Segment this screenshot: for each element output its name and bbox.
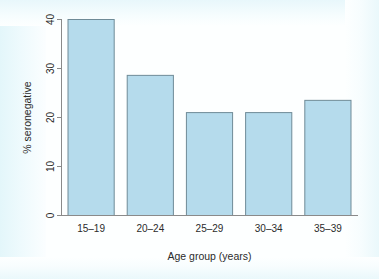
x-tick-label-20-24: 20–24 [136,223,164,234]
bar-20-24 [127,75,173,215]
bar-15-19 [68,20,114,216]
bar-25-29 [186,113,232,216]
x-tick-label-15-19: 15–19 [77,223,105,234]
y-axis-title: % seronegative [21,81,33,154]
x-tick-label-30-34: 30–34 [255,223,283,234]
y-axis [57,20,62,216]
y-tick-label-20: 20 [45,112,56,124]
bar-35-39 [305,100,351,215]
x-tick-label-35-39: 35–39 [314,223,342,234]
bar-30-34 [246,113,292,216]
chart-figure: 010203040 15–1920–2425–2930–3435–39 % se… [0,0,379,279]
x-axis-title: Age group (years) [167,250,251,262]
y-tick-labels: 010203040 [45,14,56,219]
y-tick-label-30: 30 [45,63,56,75]
x-tick-label-25-29: 25–29 [196,223,224,234]
bars-group [68,20,351,216]
x-tick-labels: 15–1920–2425–2930–3435–39 [77,223,342,234]
y-tick-label-40: 40 [45,14,56,26]
y-tick-label-0: 0 [45,212,56,218]
bar-chart-plot: 010203040 15–1920–2425–2930–3435–39 % se… [0,0,379,279]
y-tick-label-10: 10 [45,161,56,173]
